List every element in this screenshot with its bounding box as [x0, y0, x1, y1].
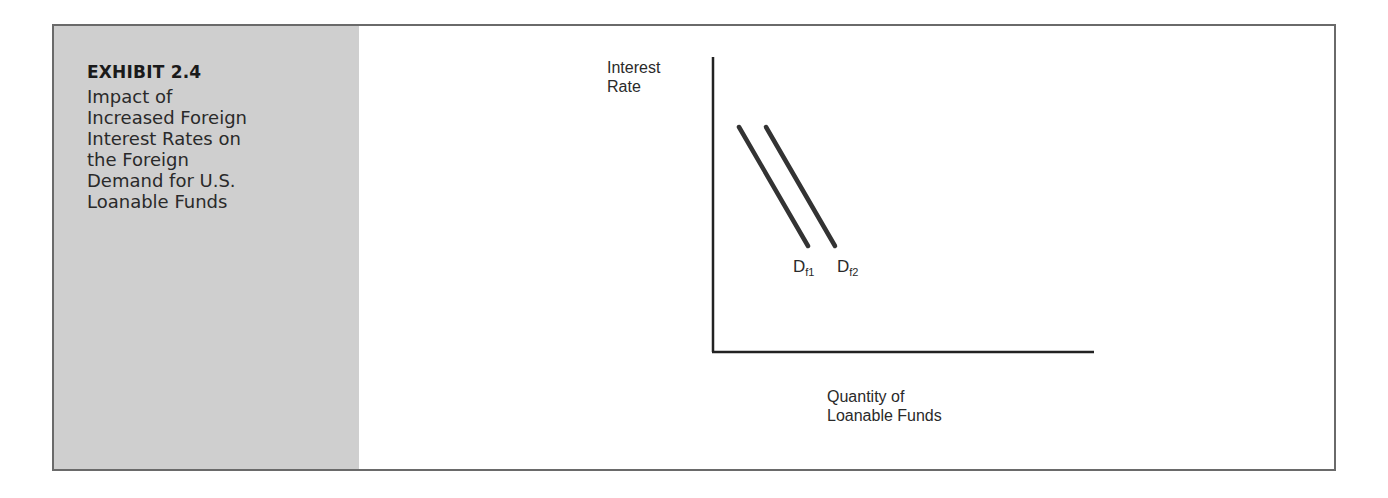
label-df1: Df1: [793, 257, 814, 278]
demand-curve-df2: [766, 127, 835, 246]
x-axis-label: Quantity of Loanable Funds: [827, 387, 957, 425]
label-df2-sub: f2: [849, 266, 858, 278]
label-df1-main: D: [793, 257, 805, 276]
x-axis-label-text: Quantity of Loanable Funds: [827, 387, 957, 425]
demand-curve-df1: [739, 127, 808, 246]
chart-plot: [0, 0, 1388, 498]
label-df2-main: D: [837, 257, 849, 276]
label-df1-sub: f1: [805, 266, 814, 278]
y-axis-label-text: Interest Rate: [607, 58, 667, 96]
y-axis-label: Interest Rate: [607, 58, 667, 96]
label-df2: Df2: [837, 257, 858, 278]
